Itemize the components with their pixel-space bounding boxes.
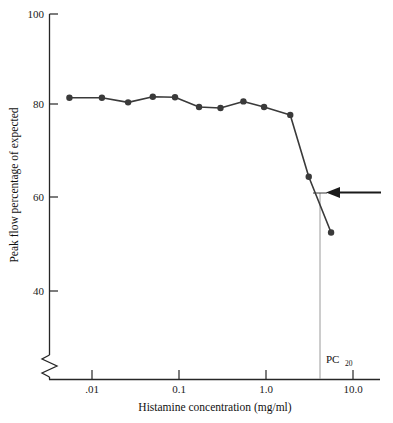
data-point bbox=[240, 98, 246, 104]
x-axis-title: Histamine concentration (mg/ml) bbox=[138, 401, 291, 414]
y-tick-marks bbox=[50, 14, 59, 291]
arrow-pointer-icon bbox=[326, 187, 381, 198]
y-tick-labels: 100 80 60 40 bbox=[28, 8, 45, 297]
chart-figure: 100 80 60 40 .01 0.1 1.0 10.0 Histamine … bbox=[0, 0, 393, 423]
chart-svg: 100 80 60 40 .01 0.1 1.0 10.0 Histamine … bbox=[0, 0, 393, 423]
x-tick-label-0-1: 0.1 bbox=[172, 383, 186, 395]
y-tick-label-60: 60 bbox=[33, 191, 45, 203]
y-tick-label-40: 40 bbox=[33, 285, 45, 297]
x-tick-label-0-01: .01 bbox=[85, 383, 99, 395]
data-point bbox=[328, 229, 334, 235]
data-markers-peak-flow bbox=[66, 94, 334, 236]
y-tick-label-80: 80 bbox=[33, 98, 45, 110]
data-point bbox=[172, 94, 178, 100]
data-point bbox=[66, 95, 72, 101]
data-point bbox=[196, 104, 202, 110]
y-axis-title: Peak flow percentage of expected bbox=[8, 107, 21, 262]
x-tick-marks bbox=[92, 370, 353, 380]
pc20-label: PC 20 bbox=[326, 353, 353, 368]
data-point bbox=[217, 105, 223, 111]
axis-break-symbol bbox=[42, 355, 57, 377]
x-tick-label-10-0: 10.0 bbox=[343, 383, 363, 395]
data-point bbox=[99, 95, 105, 101]
data-point bbox=[150, 94, 156, 100]
data-point bbox=[261, 104, 267, 110]
x-tick-labels: .01 0.1 1.0 10.0 bbox=[85, 383, 363, 395]
pc20-guide-line bbox=[313, 193, 327, 379]
pc20-label-text: PC bbox=[326, 353, 339, 365]
pc20-label-subscript: 20 bbox=[345, 359, 353, 368]
data-point bbox=[306, 174, 312, 180]
data-point bbox=[125, 99, 131, 105]
data-point bbox=[287, 112, 293, 118]
x-tick-label-1-0: 1.0 bbox=[259, 383, 273, 395]
y-tick-label-100: 100 bbox=[28, 8, 45, 20]
